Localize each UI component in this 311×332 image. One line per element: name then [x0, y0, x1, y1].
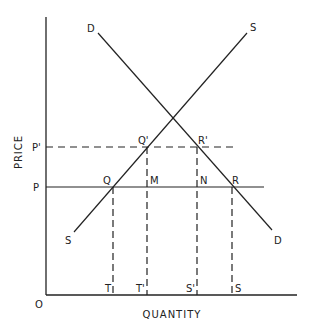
price-label-p: P [33, 182, 39, 193]
point-label-q: Q [103, 175, 111, 186]
x-axis-label: QUANTITY [143, 309, 202, 320]
supply-label-bottom: S [65, 235, 71, 246]
point-label-q-prime: Q' [138, 135, 149, 146]
y-axis-label: PRICE [13, 135, 24, 169]
supply-label-top: S [250, 22, 256, 33]
demand-curve [98, 33, 272, 230]
origin-label: O [35, 299, 43, 310]
quantity-label-s: S [235, 283, 241, 294]
price-label-p-prime: P' [32, 142, 41, 153]
point-label-r-prime: R' [198, 135, 208, 146]
quantity-label-s-prime: S' [186, 283, 195, 294]
supply-demand-diagram: PRICE QUANTITY O D D S S P' P Q Q' R' R … [0, 0, 311, 332]
demand-label-bottom: D [274, 235, 282, 246]
quantity-label-t-prime: T' [135, 283, 145, 294]
point-label-m: M [150, 175, 159, 186]
demand-label-top: D [87, 23, 95, 34]
quantity-label-t: T [104, 283, 112, 294]
point-label-r: R [232, 175, 239, 186]
supply-curve [74, 33, 247, 232]
point-label-n: N [200, 175, 207, 186]
